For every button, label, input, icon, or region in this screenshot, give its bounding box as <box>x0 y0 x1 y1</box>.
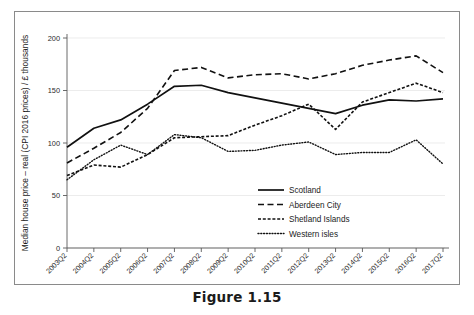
figure-page: 050100150200 2003Q22004Q22005Q22006Q2200… <box>0 0 474 315</box>
series-line-western-isles <box>67 135 443 180</box>
x-tick-label: 2003Q2 <box>44 251 68 275</box>
figure-caption: Figure 1.15 <box>0 289 474 305</box>
x-tick-label: 2014Q2 <box>339 251 363 275</box>
house-price-line-chart: 050100150200 2003Q22004Q22005Q22006Q2200… <box>15 12 459 284</box>
series-group <box>67 56 443 180</box>
y-tick-label: 200 <box>48 34 60 43</box>
series-line-scotland <box>67 85 443 147</box>
y-axis-title: Median house price – real (CPI 2016 pric… <box>20 35 30 251</box>
y-tick-label: 100 <box>48 139 60 148</box>
x-tick-label: 2012Q2 <box>286 251 310 275</box>
x-tick-label: 2007Q2 <box>151 251 175 275</box>
x-tick-labels-group: 2003Q22004Q22005Q22006Q22007Q22008Q22009… <box>44 248 444 276</box>
x-tick-label: 2017Q2 <box>420 251 444 275</box>
series-line-aberdeen-city <box>67 56 443 163</box>
x-tick-label: 2010Q2 <box>232 251 256 275</box>
axes-group <box>67 34 449 248</box>
x-tick-label: 2016Q2 <box>393 251 417 275</box>
x-tick-label: 2011Q2 <box>259 251 283 275</box>
legend-label-shetland-islands: Shetland Islands <box>289 215 350 224</box>
legend: ScotlandAberdeen CityShetland IslandsWes… <box>258 186 350 239</box>
gridlines-group <box>67 38 445 248</box>
legend-label-aberdeen-city: Aberdeen City <box>289 201 342 210</box>
y-tick-label: 0 <box>56 244 60 253</box>
y-tick-label: 50 <box>52 191 60 200</box>
x-tick-label: 2015Q2 <box>366 251 390 275</box>
figure-frame: 050100150200 2003Q22004Q22005Q22006Q2200… <box>14 11 460 285</box>
x-tick-label: 2009Q2 <box>205 251 229 275</box>
x-tick-label: 2006Q2 <box>125 251 149 275</box>
y-tick-labels-group: 050100150200 <box>48 34 67 253</box>
y-tick-label: 150 <box>48 86 60 95</box>
x-tick-label: 2008Q2 <box>178 251 202 275</box>
x-tick-label: 2004Q2 <box>71 251 95 275</box>
x-tick-label: 2013Q2 <box>313 251 337 275</box>
y-axis-title-group: Median house price – real (CPI 2016 pric… <box>20 35 30 251</box>
legend-label-western-isles: Western isles <box>289 230 338 239</box>
x-tick-label: 2005Q2 <box>98 251 122 275</box>
legend-label-scotland: Scotland <box>289 186 321 195</box>
